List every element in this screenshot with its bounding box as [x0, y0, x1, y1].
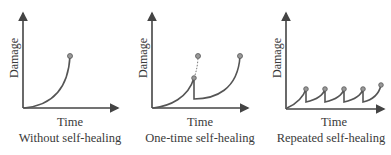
panel-repeated-self-healing [286, 13, 384, 109]
damage-curve [24, 56, 70, 108]
healing-point [192, 76, 197, 81]
x-axis-label: Time [321, 115, 347, 130]
panel-caption: Repeated self-healing [277, 131, 386, 146]
panel-one-time-self-healing [152, 13, 248, 108]
panel-without-self-healing [23, 13, 118, 108]
failure-point [238, 54, 243, 59]
healing-point [379, 83, 384, 88]
y-axis-label: Damage [136, 38, 151, 78]
y-axis-label: Damage [7, 38, 22, 78]
healing-point [304, 87, 309, 92]
y-axis-label: Damage [270, 38, 285, 78]
failure-point [68, 54, 73, 59]
healing-point [323, 87, 328, 92]
damage-curve [153, 56, 240, 108]
panel-caption: One-time self-healing [145, 131, 254, 146]
damage-curve [287, 85, 381, 108]
x-axis-label: Time [187, 115, 213, 130]
healing-point [361, 87, 366, 92]
unhealed-extrapolation [194, 56, 198, 78]
healing-point [342, 87, 347, 92]
x-axis-label: Time [57, 115, 83, 130]
panel-caption: Without self-healing [19, 131, 122, 146]
failure-point [196, 54, 201, 59]
